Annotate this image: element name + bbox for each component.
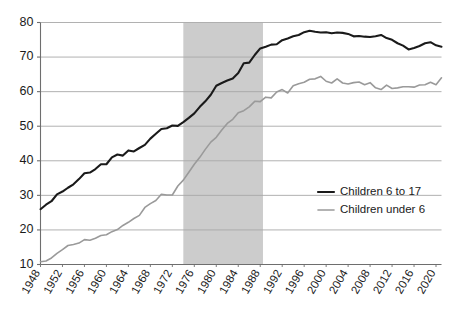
x-tick-label-2000: 2000	[305, 267, 328, 295]
y-axis-tick-labels: 1020304050607080	[20, 15, 34, 271]
x-tick-label-2008: 2008	[349, 268, 372, 296]
x-tick-label-2020: 2020	[415, 268, 438, 296]
x-tick-label-1976: 1976	[173, 268, 196, 296]
y-tick-label-30: 30	[20, 188, 34, 202]
x-axis-tick-labels: 1948195219561960196419681972197619801984…	[19, 265, 438, 296]
x-tick-label-1992: 1992	[261, 268, 284, 296]
y-tick-label-60: 60	[20, 84, 34, 98]
x-tick-label-1952: 1952	[41, 267, 64, 295]
x-tick-label-1980: 1980	[195, 267, 218, 295]
y-tick-label-70: 70	[20, 49, 34, 63]
chart-container: 1020304050607080 19481952195619601964196…	[0, 0, 465, 311]
legend-label-0: Children 6 to 17	[340, 185, 421, 197]
x-tick-label-1972: 1972	[151, 268, 174, 296]
x-tick-label-2016: 2016	[393, 267, 416, 295]
legend-label-1: Children under 6	[340, 203, 425, 215]
y-tick-label-40: 40	[20, 153, 34, 167]
y-tick-label-50: 50	[20, 119, 34, 133]
x-tick-label-1948: 1948	[19, 268, 42, 296]
x-tick-label-1960: 1960	[85, 268, 108, 296]
y-tick-label-80: 80	[20, 15, 34, 29]
x-tick-label-1964: 1964	[107, 267, 130, 296]
y-tick-label-20: 20	[20, 222, 34, 236]
x-tick-label-1996: 1996	[283, 267, 306, 295]
x-tick-label-2004: 2004	[327, 267, 350, 296]
x-tick-label-1956: 1956	[63, 268, 86, 296]
x-tick-label-1968: 1968	[129, 267, 152, 295]
line-chart: 1020304050607080 19481952195619601964196…	[0, 0, 465, 311]
x-tick-label-1984: 1984	[217, 267, 240, 296]
x-tick-label-1988: 1988	[239, 268, 262, 296]
x-tick-label-2012: 2012	[371, 267, 394, 295]
